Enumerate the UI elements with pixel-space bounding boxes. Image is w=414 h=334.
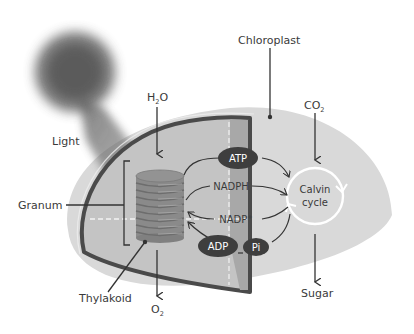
adp-badge: ADP xyxy=(198,235,238,257)
sugar-label: Sugar xyxy=(301,287,334,300)
calvin-cycle-label-2: cycle xyxy=(302,197,328,208)
pi-badge: Pi xyxy=(243,238,269,256)
co2-label: CO2 xyxy=(304,99,324,114)
calvin-cycle-label: Calvin xyxy=(300,184,331,195)
svg-text:Pi: Pi xyxy=(252,242,261,253)
chloroplast-diagram: ATP ADP Pi NADPH NADP+ Calvin cycle Ligh… xyxy=(0,0,414,334)
thylakoid-label: Thylakoid xyxy=(78,292,132,305)
svg-text:ADP: ADP xyxy=(208,241,229,252)
h2o-label: H2O xyxy=(147,91,168,106)
granum-stack xyxy=(136,170,184,243)
svg-text:ATP: ATP xyxy=(229,153,247,164)
atp-badge: ATP xyxy=(218,147,258,169)
light-label: Light xyxy=(52,135,80,148)
o2-label: O2 xyxy=(151,303,164,318)
granum-label: Granum xyxy=(18,199,62,212)
nadph-label: NADPH xyxy=(213,181,249,192)
chloroplast-label: Chloroplast xyxy=(238,34,301,47)
